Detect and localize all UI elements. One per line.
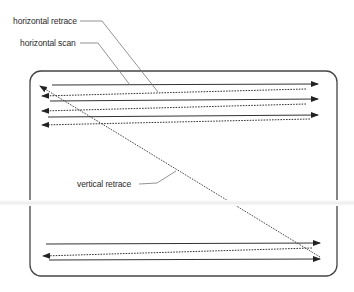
leader-vertical-retrace	[139, 171, 176, 184]
scan-lines	[40, 84, 320, 260]
horizontal-scan-line	[46, 243, 320, 244]
horizontal-scan-line	[52, 84, 318, 85]
vertical-retrace-line	[40, 86, 320, 257]
label-vertical-retrace: vertical retrace	[77, 179, 131, 189]
scan-artifact-band	[0, 200, 354, 206]
horizontal-scan-line	[49, 259, 320, 260]
label-horizontal-retrace: horizontal retrace	[13, 16, 77, 26]
leader-horizontal-scan	[80, 43, 130, 85]
horizontal-scan-line	[48, 115, 318, 117]
horizontal-retrace-line	[42, 104, 306, 111]
leader-horizontal-retrace	[80, 21, 158, 92]
label-horizontal-scan: horizontal scan	[20, 38, 76, 48]
horizontal-retrace-line	[42, 119, 310, 125]
horizontal-scan-line	[50, 99, 318, 101]
horizontal-retrace-line	[43, 248, 312, 256]
horizontal-retrace-line	[42, 89, 306, 96]
